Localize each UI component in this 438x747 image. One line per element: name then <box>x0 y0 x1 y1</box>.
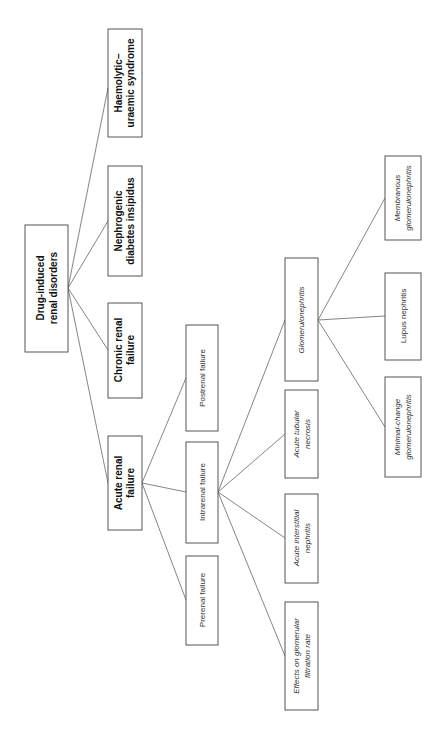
node-label: uraemic syndrome <box>125 38 136 127</box>
node-label: glomerulonephritis <box>404 165 413 230</box>
node-label: failure <box>125 468 136 498</box>
node-label: failure <box>125 335 136 365</box>
node-label: Effects on glomerular <box>292 618 301 694</box>
node-label: Acute renal <box>113 456 124 511</box>
edge-root-hus <box>68 88 108 288</box>
node-label: Postrenal failure <box>198 349 207 407</box>
node-label: glomerulonephritis <box>404 394 413 459</box>
edge-gn-mgn <box>318 198 385 320</box>
node-glomerulonephritis: Glomerulonephritis <box>285 258 318 381</box>
node-acute-interstitial-nephritis: Acute interstitial nephritis <box>285 494 318 583</box>
edge-intra-atn <box>218 434 285 492</box>
node-label: renal disorders <box>48 251 59 324</box>
node-postrenal-failure: Postrenal failure <box>186 325 218 431</box>
node-lupus-nephritis: Lupus nephritis <box>385 273 421 360</box>
node-label: Drug-induced <box>35 256 46 321</box>
edge-arf-post <box>142 378 186 483</box>
node-intrarenal-failure: Intrarenal failure <box>186 442 218 543</box>
node-label: Chronic renal <box>113 318 124 383</box>
edge-root-ndi <box>68 221 108 288</box>
node-label: diabetes insipidus <box>125 177 136 265</box>
node-label: filtration rate <box>303 633 312 678</box>
node-label: Prerenal failure <box>198 572 207 627</box>
node-effects-on-gfr: Effects on glomerular filtration rate <box>285 602 318 710</box>
edge-intra-gfr <box>218 492 285 656</box>
node-chronic-renal-failure: Chronic renal failure <box>108 303 142 398</box>
node-label: Haemolytic– <box>113 53 124 112</box>
edge-intra-gn <box>218 320 285 492</box>
node-minimal-change-glomerulonephritis: Minimal-change glomerulonephritis <box>385 377 421 477</box>
node-nephrogenic-diabetes-insipidus: Nephrogenic diabetes insipidus <box>108 166 142 276</box>
node-label: Nephrogenic <box>113 190 124 252</box>
node-label: Glomerulonephritis <box>297 286 306 353</box>
node-haemolytic-uraemic-syndrome: Haemolytic– uraemic syndrome <box>108 29 142 137</box>
edge-root-arf <box>68 288 108 483</box>
node-label: nephritis <box>303 523 312 553</box>
node-label: Lupus nephritis <box>399 289 408 343</box>
node-label: Acute tubular <box>292 410 301 458</box>
node-acute-renal-failure: Acute renal failure <box>108 436 142 530</box>
edge-gn-mcg <box>318 320 385 427</box>
edge-arf-pre <box>142 483 186 600</box>
edge-arf-intra <box>142 483 186 492</box>
renal-disorders-tree: Drug-induced renal disorders Haemolytic–… <box>0 0 438 747</box>
node-prerenal-failure: Prerenal failure <box>186 556 218 645</box>
edge-intra-ain <box>218 492 285 538</box>
node-label: Minimal-change <box>393 398 402 455</box>
node-label: Membranous <box>393 175 402 222</box>
node-membranous-glomerulonephritis: Membranous glomerulonephritis <box>385 156 421 240</box>
edge-gn-lupus <box>318 316 385 320</box>
node-drug-induced-renal-disorders: Drug-induced renal disorders <box>25 225 68 352</box>
node-acute-tubular-necrosis: Acute tubular necrosis <box>285 390 318 478</box>
node-label: Intrarenal failure <box>198 463 207 521</box>
node-label: necrosis <box>303 419 312 449</box>
node-label: Acute interstitial <box>292 510 301 568</box>
